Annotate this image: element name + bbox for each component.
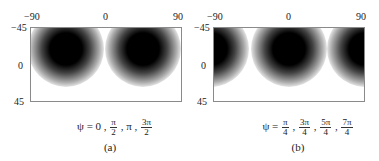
fraction: 3π4 bbox=[299, 118, 310, 137]
heatmap-a bbox=[30, 27, 182, 102]
x-tick-left: −90 bbox=[207, 12, 223, 22]
y-tick-bottom: 45 bbox=[197, 97, 207, 107]
x-tick-right: 90 bbox=[173, 12, 183, 22]
panel-label-b: (b) bbox=[283, 141, 313, 153]
fraction: 7π4 bbox=[341, 118, 352, 137]
y-tick-top: −45 bbox=[11, 23, 27, 33]
intensity-peak bbox=[327, 27, 365, 87]
caption-b: ψ = π4 , 3π4 , 5π4 , 7π4 bbox=[243, 118, 373, 137]
caption-prefix: ψ = bbox=[262, 120, 278, 132]
intensity-peak bbox=[30, 27, 104, 87]
panel-b: −90 0 90 −45 0 45 ψ = π4 , 3π4 , 5π4 , 7… bbox=[183, 0, 373, 161]
x-tick-center: 0 bbox=[103, 12, 108, 22]
heatmap-b bbox=[213, 27, 365, 102]
fraction: 3π2 bbox=[141, 118, 152, 137]
y-tick-top: −45 bbox=[194, 23, 210, 33]
y-tick-middle: 0 bbox=[18, 61, 23, 71]
pi-term: π bbox=[126, 120, 132, 132]
panel-a: −90 0 90 −45 0 45 ψ = 0 , π2 , π , 3π2 (… bbox=[0, 0, 190, 161]
y-tick-middle: 0 bbox=[201, 61, 206, 71]
y-tick-bottom: 45 bbox=[14, 97, 24, 107]
intensity-peak bbox=[105, 27, 181, 87]
fraction: π2 bbox=[110, 118, 117, 137]
caption-a: ψ = 0 , π2 , π , 3π2 bbox=[60, 118, 170, 137]
x-tick-right: 90 bbox=[356, 12, 366, 22]
x-tick-center: 0 bbox=[286, 12, 291, 22]
fraction: 5π4 bbox=[320, 118, 331, 137]
caption-prefix: ψ = 0 , bbox=[77, 120, 107, 132]
x-tick-left: −90 bbox=[24, 12, 40, 22]
intensity-peak bbox=[251, 27, 327, 87]
intensity-peak bbox=[213, 27, 249, 87]
panel-label-a: (a) bbox=[95, 141, 125, 153]
fraction: π4 bbox=[282, 118, 289, 137]
